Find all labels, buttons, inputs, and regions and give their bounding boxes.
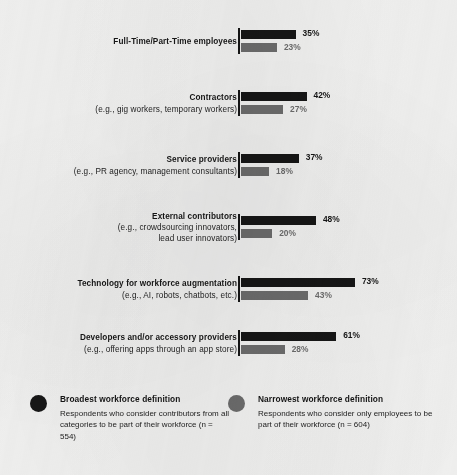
- legend-dot-broadest-icon: [30, 395, 47, 412]
- bar-value-narrow: 18%: [276, 166, 293, 176]
- bar-value-broad: 37%: [306, 152, 323, 162]
- row-label-sub: (e.g., crowdsourcing innovators,: [12, 222, 237, 233]
- axis-tick: [238, 90, 240, 116]
- row-label-sub: (e.g., offering apps through an app stor…: [12, 344, 237, 355]
- axis-tick: [238, 276, 240, 302]
- bar-group: 42%27%: [241, 90, 457, 116]
- bar-rect-narrow: [241, 291, 308, 300]
- row-label: Full-Time/Part-Time employees: [12, 36, 237, 47]
- bar-rect-broad: [241, 30, 296, 39]
- legend-item-broadest: Broadest workforce definition Respondent…: [30, 393, 230, 442]
- bar-rect-broad: [241, 278, 355, 287]
- bar-rect-broad: [241, 216, 316, 225]
- bar-value-narrow: 27%: [290, 104, 307, 114]
- bar-group: 61%28%: [241, 330, 457, 356]
- axis-tick: [238, 214, 240, 240]
- axis-tick: [238, 330, 240, 356]
- axis-tick: [238, 28, 240, 54]
- row-label-sub: (e.g., PR agency, management consultants…: [12, 166, 237, 177]
- row-label-main: Full-Time/Part-Time employees: [12, 36, 237, 47]
- legend-text-narrowest: Narrowest workforce definition Responden…: [258, 393, 443, 431]
- bar-value-narrow: 43%: [315, 290, 332, 300]
- row-label-sub: (e.g., gig workers, temporary workers): [12, 104, 237, 115]
- row-label-sub2: lead user innovators): [12, 233, 237, 244]
- bar-value-broad: 48%: [323, 214, 340, 224]
- legend-item-narrowest: Narrowest workforce definition Responden…: [228, 393, 443, 431]
- chart-row: Full-Time/Part-Time employees35%23%: [0, 28, 457, 54]
- row-label-main: Service providers: [12, 154, 237, 165]
- bar-group: 48%20%: [241, 214, 457, 240]
- chart-row: Developers and/or accessory providers(e.…: [0, 330, 457, 356]
- bar-rect-narrow: [241, 345, 285, 354]
- chart-row: Contractors(e.g., gig workers, temporary…: [0, 90, 457, 116]
- row-label-sub: (e.g., AI, robots, chatbots, etc.): [12, 290, 237, 301]
- legend-text-broadest: Broadest workforce definition Respondent…: [60, 393, 230, 442]
- bar-value-narrow: 20%: [279, 228, 296, 238]
- bar-group: 37%18%: [241, 152, 457, 178]
- bar-value-narrow: 28%: [292, 344, 309, 354]
- bar-rect-narrow: [241, 105, 283, 114]
- bar-rect-broad: [241, 92, 307, 101]
- bar-rect-narrow: [241, 43, 277, 52]
- bar-value-broad: 35%: [303, 28, 320, 38]
- row-label-main: Developers and/or accessory providers: [12, 332, 237, 343]
- row-label: External contributors(e.g., crowdsourcin…: [12, 211, 237, 245]
- bar-rect-narrow: [241, 167, 269, 176]
- chart-row: External contributors(e.g., crowdsourcin…: [0, 214, 457, 240]
- bar-value-broad: 61%: [343, 330, 360, 340]
- legend-title-narrowest: Narrowest workforce definition: [258, 393, 443, 405]
- legend-title-broadest: Broadest workforce definition: [60, 393, 230, 405]
- row-label-main: Contractors: [12, 92, 237, 103]
- bar-value-broad: 73%: [362, 276, 379, 286]
- row-label: Contractors(e.g., gig workers, temporary…: [12, 92, 237, 114]
- bar-rect-narrow: [241, 229, 272, 238]
- row-label-main: External contributors: [12, 211, 237, 222]
- chart-row: Service providers(e.g., PR agency, manag…: [0, 152, 457, 178]
- chart-legend: Broadest workforce definition Respondent…: [0, 385, 457, 475]
- bar-rect-broad: [241, 332, 336, 341]
- row-label: Service providers(e.g., PR agency, manag…: [12, 154, 237, 176]
- row-label: Developers and/or accessory providers(e.…: [12, 332, 237, 354]
- row-label: Technology for workforce augmentation(e.…: [12, 278, 237, 300]
- legend-description-broadest: Respondents who consider contributors fr…: [60, 408, 230, 442]
- bar-value-broad: 42%: [314, 90, 331, 100]
- bar-chart: Full-Time/Part-Time employees35%23%Contr…: [0, 0, 457, 385]
- row-label-main: Technology for workforce augmentation: [12, 278, 237, 289]
- bar-group: 35%23%: [241, 28, 457, 54]
- legend-description-narrowest: Respondents who consider only employees …: [258, 408, 443, 431]
- axis-tick: [238, 152, 240, 178]
- chart-row: Technology for workforce augmentation(e.…: [0, 276, 457, 302]
- legend-dot-narrowest-icon: [228, 395, 245, 412]
- bar-rect-broad: [241, 154, 299, 163]
- bar-value-narrow: 23%: [284, 42, 301, 52]
- bar-group: 73%43%: [241, 276, 457, 302]
